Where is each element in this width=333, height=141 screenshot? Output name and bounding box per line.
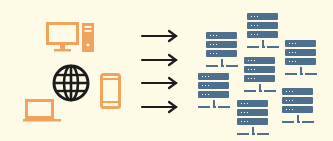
server-icon	[198, 73, 229, 111]
smartphone-icon	[100, 73, 122, 111]
laptop-icon	[22, 99, 64, 125]
server-icon	[247, 13, 278, 51]
arrow-right-icon	[142, 31, 176, 41]
server-icon	[206, 32, 237, 70]
arrow-right-icon	[142, 55, 176, 65]
arrows	[138, 28, 182, 118]
arrow-right-icon	[142, 102, 176, 112]
globe-icon	[50, 63, 92, 103]
server-icon	[282, 88, 313, 126]
server-icon	[285, 40, 316, 78]
arrow-right-icon	[142, 78, 176, 88]
server-icon	[244, 57, 275, 95]
desktop-computer-icon	[46, 22, 98, 54]
server-icon	[237, 100, 268, 138]
